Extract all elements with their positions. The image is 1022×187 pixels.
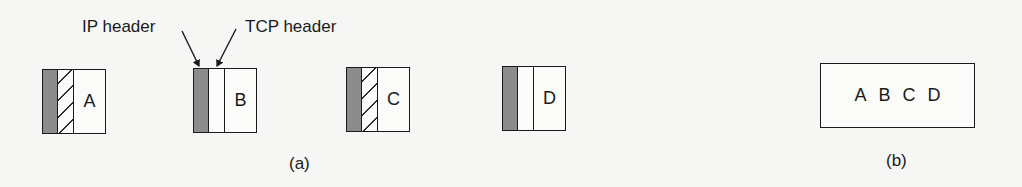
packet-d: D	[502, 66, 566, 131]
packet-data: B	[225, 69, 256, 132]
tcp-header-segment	[518, 67, 534, 130]
combined-data-box: A B C D	[820, 63, 975, 128]
packet-data: D	[534, 67, 565, 130]
ip-header-arrow	[182, 31, 199, 66]
tcp-header-label: TCP header	[245, 17, 336, 37]
tcp-header-segment	[209, 69, 225, 132]
combined-data-a: A	[854, 85, 866, 106]
ip-header-segment	[503, 67, 518, 130]
ip-header-segment	[194, 69, 209, 132]
caption-b: (b)	[886, 151, 907, 171]
packet-c: C	[346, 67, 410, 132]
combined-data-b: B	[879, 85, 891, 106]
ip-header-segment	[43, 70, 58, 133]
tcp-header-segment	[362, 68, 378, 131]
packet-data: C	[378, 68, 409, 131]
combined-data-d: D	[928, 85, 941, 106]
ip-header-segment	[347, 68, 362, 131]
packet-data: A	[74, 70, 105, 133]
combined-data-c: C	[903, 85, 916, 106]
packet-b: B	[193, 68, 257, 133]
caption-a: (a)	[289, 154, 310, 174]
ip-header-label: IP header	[82, 17, 155, 37]
tcp-header-segment	[58, 70, 74, 133]
packet-a: A	[42, 69, 106, 134]
tcp-header-arrow	[217, 29, 236, 66]
tcp-segments-diagram: IP header TCP header A B C D (a) A	[0, 0, 1022, 187]
